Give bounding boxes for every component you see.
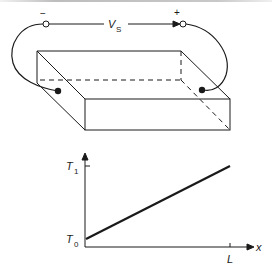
temperature-profile-line (86, 166, 230, 239)
positive-label: + (174, 7, 180, 18)
y-tick-bottom-label: T (66, 233, 74, 245)
x-tick-label: L (227, 253, 233, 265)
y-tick-top-subscript: 1 (74, 167, 79, 176)
x-axis-arrow-icon (247, 244, 254, 250)
y-tick-bottom-subscript: 0 (74, 240, 79, 249)
source-subscript: S (116, 25, 121, 34)
hidden-bottom-right-edge (181, 80, 230, 130)
right-lead-wire (186, 24, 227, 90)
x-axis-label: x (255, 241, 262, 253)
slab-front-face (85, 99, 230, 130)
y-tick-top-label: T (66, 160, 74, 172)
temperature-graph (82, 153, 254, 250)
positive-terminal-icon (180, 21, 186, 27)
left-contact-dot-icon (55, 88, 61, 94)
negative-terminal-icon (43, 21, 49, 27)
slab-top-right-edge (181, 51, 230, 99)
right-contact-dot-icon (199, 87, 205, 93)
arrow-right-icon (173, 21, 180, 27)
left-lead-wire (12, 24, 58, 91)
thermoelectric-diagram: − + V S T 1 T 0 L x (0, 0, 272, 269)
negative-label: − (40, 8, 46, 19)
y-axis-arrow-icon (82, 153, 88, 160)
